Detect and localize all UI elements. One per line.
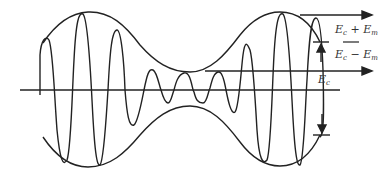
upper-envelope [43, 12, 320, 72]
lower-envelope [43, 106, 320, 167]
max-arrow-head [362, 11, 372, 19]
label-ec: Ec [317, 73, 330, 87]
label-ec-plus-em: Ec + Em [334, 23, 378, 37]
label-ec-minus-em: Ec − Em [334, 48, 378, 62]
lower-marker-arrow-head [318, 125, 326, 133]
upper-marker-arrow-head [317, 44, 325, 52]
am-wave-diagram: Ec + Em Ec − Em Ec [0, 0, 385, 179]
ec-arrow-head [362, 67, 372, 75]
